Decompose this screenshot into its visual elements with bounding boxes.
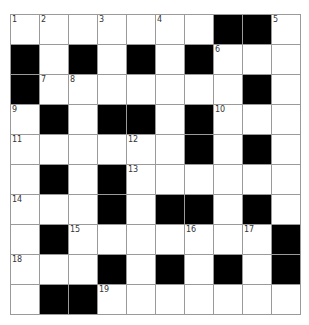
crossword-cell[interactable] [127,15,156,45]
clue-number: 6 [215,45,220,54]
crossword-cell[interactable] [98,135,127,165]
crossword-cell[interactable] [214,75,243,105]
crossword-cell[interactable]: 14 [11,195,40,225]
crossword-cell[interactable] [69,15,98,45]
crossword-cell[interactable] [214,195,243,225]
crossword-cell[interactable]: 3 [98,15,127,45]
black-square [69,285,98,315]
crossword-cell[interactable] [69,105,98,135]
crossword-cell[interactable] [40,135,69,165]
crossword-cell[interactable] [40,255,69,285]
crossword-cell[interactable] [185,285,214,315]
crossword-cell[interactable] [185,165,214,195]
crossword-cell[interactable] [69,255,98,285]
crossword-cell[interactable] [156,225,185,255]
crossword-cell[interactable]: 15 [69,225,98,255]
crossword-cell[interactable] [243,165,272,195]
crossword-cell[interactable]: 16 [185,225,214,255]
crossword-cell[interactable] [127,255,156,285]
crossword-cell[interactable] [69,165,98,195]
crossword-cell[interactable] [156,105,185,135]
crossword-cell[interactable] [98,45,127,75]
crossword-cell[interactable] [272,285,301,315]
black-square [214,255,243,285]
clue-number: 2 [41,15,46,24]
crossword-cell[interactable]: 18 [11,255,40,285]
crossword-cell[interactable]: 2 [40,15,69,45]
black-square [11,75,40,105]
crossword-cell[interactable] [127,195,156,225]
crossword-cell[interactable]: 4 [156,15,185,45]
crossword-cell[interactable]: 1 [11,15,40,45]
black-square [40,285,69,315]
black-square [98,165,127,195]
crossword-cell[interactable] [127,75,156,105]
crossword-cell[interactable] [185,255,214,285]
crossword-cell[interactable] [185,15,214,45]
black-square [243,135,272,165]
crossword-cell[interactable] [214,285,243,315]
black-square [127,45,156,75]
crossword-cell[interactable] [214,135,243,165]
crossword-cell[interactable] [156,165,185,195]
crossword-cell[interactable] [272,135,301,165]
black-square [98,195,127,225]
clue-number: 19 [99,285,109,294]
crossword-cell[interactable] [40,45,69,75]
crossword-cell[interactable] [69,135,98,165]
black-square [185,135,214,165]
black-square [156,255,185,285]
crossword-cell[interactable] [98,75,127,105]
black-square [214,15,243,45]
clue-number: 12 [128,135,138,144]
crossword-cell[interactable] [272,45,301,75]
black-square [272,255,301,285]
crossword-cell[interactable]: 13 [127,165,156,195]
crossword-cell[interactable] [243,285,272,315]
black-square [98,255,127,285]
black-square [40,105,69,135]
black-square [185,105,214,135]
crossword-cell[interactable] [272,165,301,195]
crossword-cell[interactable] [272,75,301,105]
crossword-cell[interactable] [11,285,40,315]
crossword-cell[interactable]: 10 [214,105,243,135]
black-square [69,45,98,75]
crossword-cell[interactable]: 8 [69,75,98,105]
crossword-cell[interactable]: 9 [11,105,40,135]
crossword-cell[interactable] [40,195,69,225]
crossword-cell[interactable] [11,225,40,255]
crossword-cell[interactable] [156,75,185,105]
crossword-cell[interactable]: 6 [214,45,243,75]
crossword-cell[interactable] [243,105,272,135]
crossword-grid: 12345678910111213141516171819 [10,14,301,315]
black-square [243,195,272,225]
black-square [40,165,69,195]
crossword-cell[interactable] [272,195,301,225]
crossword-cell[interactable] [243,45,272,75]
crossword-cell[interactable] [11,165,40,195]
crossword-cell[interactable] [156,135,185,165]
crossword-cell[interactable] [214,165,243,195]
crossword-cell[interactable] [272,105,301,135]
crossword-cell[interactable]: 7 [40,75,69,105]
clue-number: 9 [12,105,17,114]
crossword-cell[interactable] [214,225,243,255]
crossword-cell[interactable] [156,285,185,315]
crossword-cell[interactable] [243,255,272,285]
black-square [40,225,69,255]
crossword-cell[interactable] [127,285,156,315]
crossword-cell[interactable]: 17 [243,225,272,255]
crossword-cell[interactable]: 12 [127,135,156,165]
crossword-cell[interactable] [98,225,127,255]
crossword-cell[interactable]: 11 [11,135,40,165]
crossword-cell[interactable]: 19 [98,285,127,315]
crossword-cell[interactable] [127,225,156,255]
clue-number: 18 [12,255,22,264]
crossword-cell[interactable] [156,45,185,75]
crossword-cell[interactable] [69,195,98,225]
crossword-cell[interactable]: 5 [272,15,301,45]
clue-number: 17 [244,225,254,234]
black-square [185,45,214,75]
crossword-cell[interactable] [185,75,214,105]
